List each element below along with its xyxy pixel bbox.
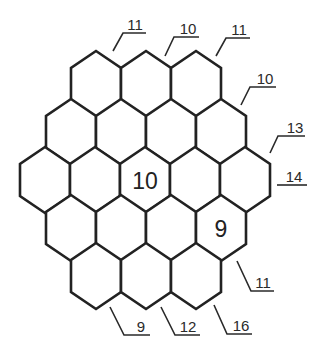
clue-top-1: 11 [113,16,146,51]
clue-label: 16 [233,317,250,334]
leader-line [241,87,276,105]
hex-row-4 [71,243,221,309]
leader-line [113,33,146,51]
clue-bottom-2: 12 [161,307,200,335]
hex-puzzle-diagram: 10 9 11 10 11 10 13 14 [0,0,318,354]
clue-label: 14 [286,168,303,185]
clue-top-2: 10 [165,20,199,56]
clue-label: 11 [231,21,247,38]
clue-label: 13 [287,119,304,136]
clue-label: 9 [137,318,145,335]
clue-bottom-1: 16 [214,305,252,334]
hex-value-r2c2: 10 [132,168,158,194]
hex-value-r3c3: 9 [215,216,228,242]
clue-label: 11 [255,274,271,291]
leader-line [216,38,250,56]
clue-right-1: 10 [241,70,276,105]
clue-right-2: 13 [270,119,305,153]
clue-label: 10 [257,70,274,87]
clue-label: 11 [127,16,143,33]
clue-label: 10 [180,20,197,37]
clue-bottom-right-1: 11 [237,261,274,291]
clue-label: 12 [180,318,197,335]
leader-line [270,136,305,153]
clue-bottom-3: 9 [110,307,150,335]
hex-row-0 [71,51,221,117]
clue-right-3: 14 [277,168,307,185]
clue-top-3: 11 [216,21,250,56]
